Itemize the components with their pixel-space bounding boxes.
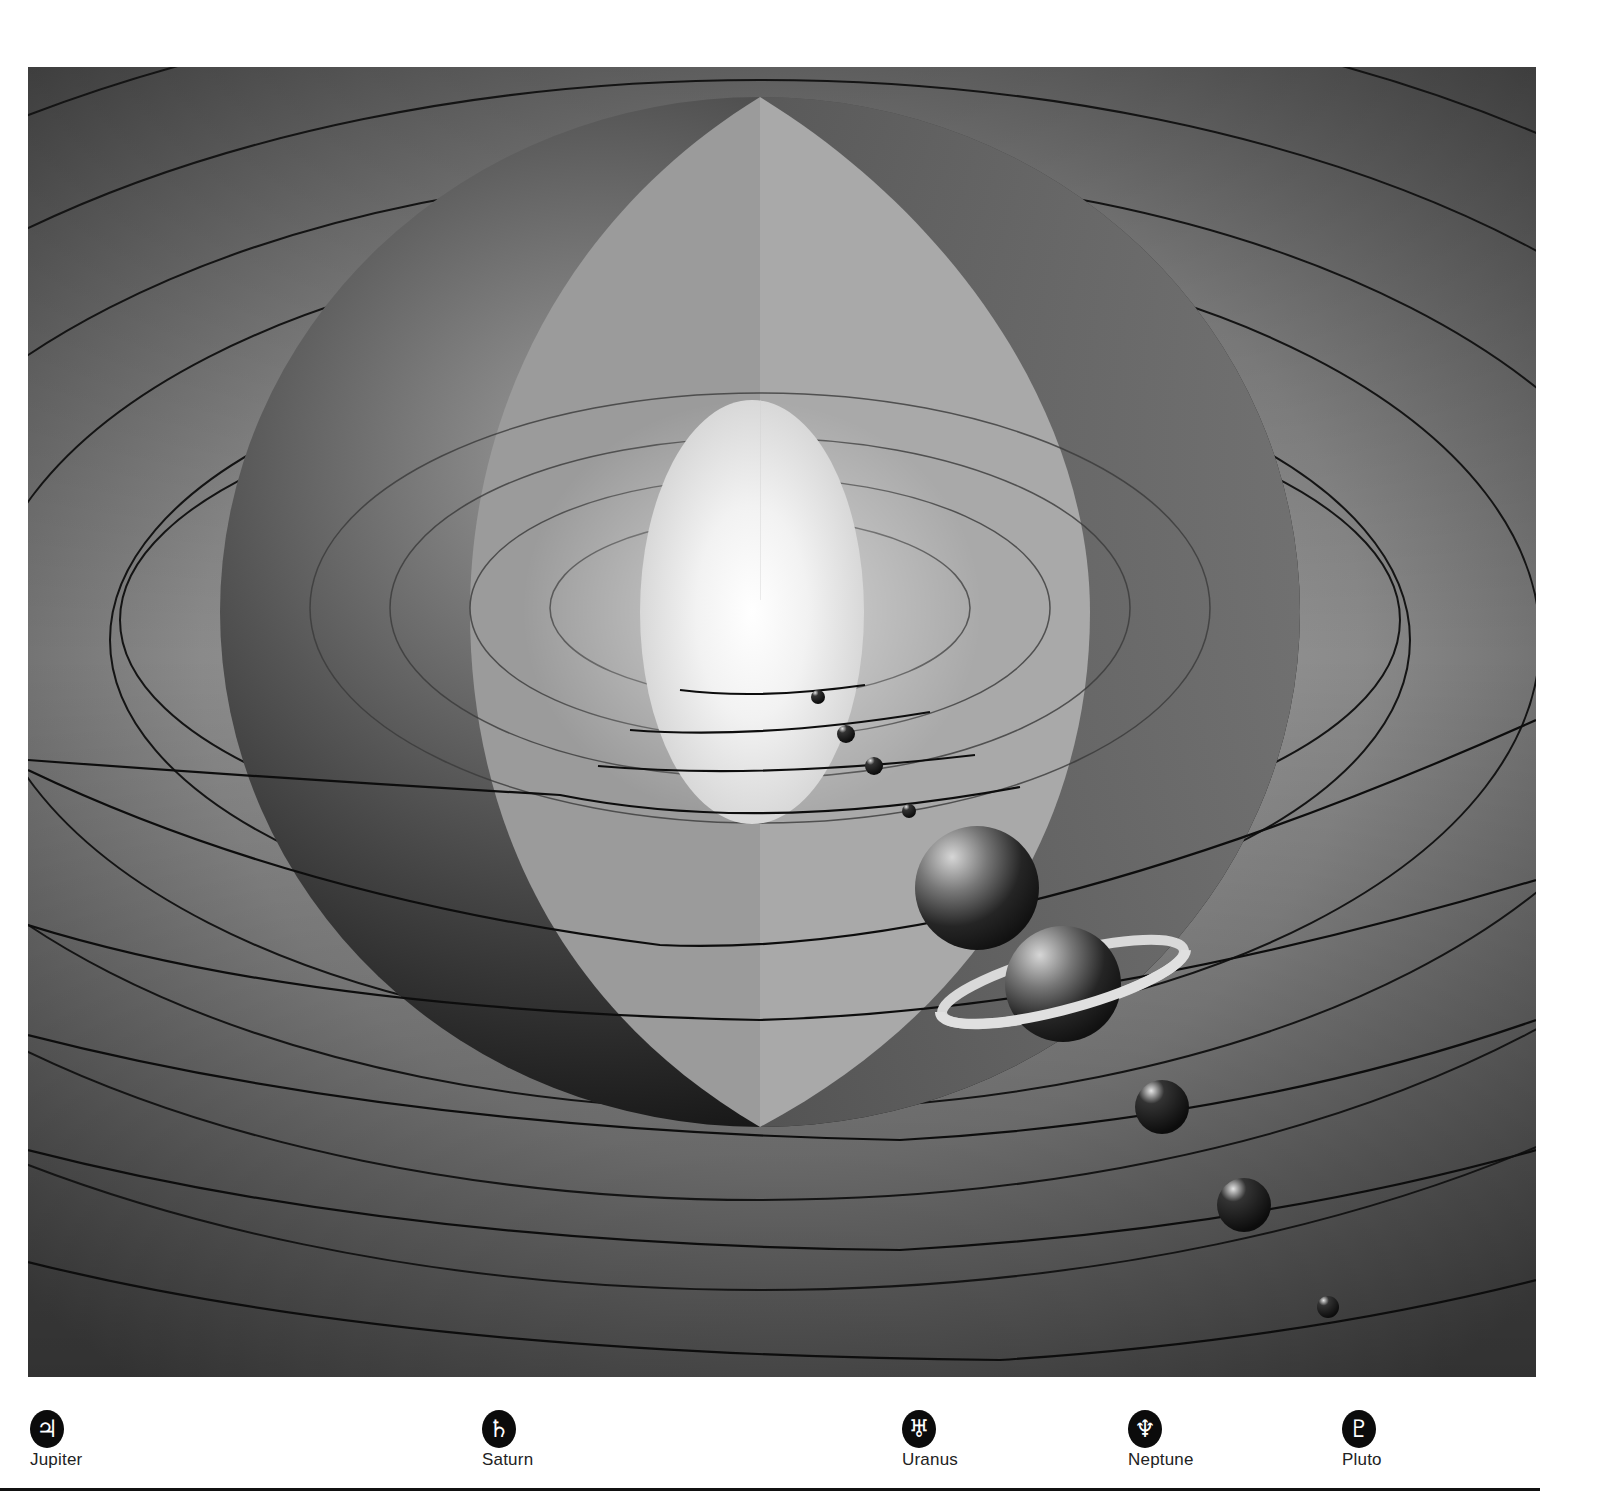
solar-system-illustration — [28, 67, 1536, 1377]
legend-label: Saturn — [482, 1450, 533, 1470]
jupiter-symbol-icon: ♃ — [30, 1410, 64, 1448]
legend-item-jupiter: ♃ Jupiter — [30, 1410, 82, 1470]
pluto-planet — [1317, 1296, 1339, 1318]
legend-item-saturn: ♄ Saturn — [482, 1410, 533, 1470]
neptune-planet — [1217, 1178, 1271, 1232]
legend-label: Jupiter — [30, 1450, 82, 1470]
uranus-symbol-icon: ♅ — [902, 1410, 936, 1448]
legend-label: Uranus — [902, 1450, 958, 1470]
uranus-planet — [1135, 1080, 1189, 1134]
legend-label: Pluto — [1342, 1450, 1382, 1470]
neptune-symbol-icon: ♆ — [1128, 1410, 1162, 1448]
legend-item-pluto: ♇ Pluto — [1342, 1410, 1382, 1470]
legend-item-uranus: ♅ Uranus — [902, 1410, 958, 1470]
jupiter-planet — [915, 826, 1039, 950]
sun — [640, 400, 864, 824]
saturn-symbol-icon: ♄ — [482, 1410, 516, 1448]
legend-label: Neptune — [1128, 1450, 1194, 1470]
planet-legend: ♃ Jupiter ♄ Saturn ♅ Uranus ♆ Neptune ♇ … — [0, 1410, 1598, 1490]
pluto-symbol-icon: ♇ — [1342, 1410, 1376, 1448]
legend-item-neptune: ♆ Neptune — [1128, 1410, 1194, 1470]
